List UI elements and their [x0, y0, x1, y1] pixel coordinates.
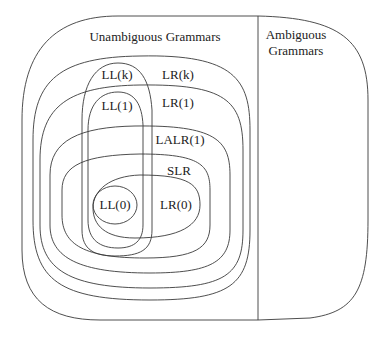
lrk-set-boundary [33, 56, 250, 300]
grammar-classes-diagram: Unambiguous Grammars Ambiguous Grammars … [0, 0, 385, 339]
lrk-label: LR(k) [162, 67, 194, 82]
slr-label: SLR [167, 163, 191, 178]
unambiguous-grammars-label: Unambiguous Grammars [89, 29, 220, 44]
all-grammars-boundary [22, 16, 368, 320]
lr1-label: LR(1) [162, 95, 194, 110]
ll1-set-boundary [88, 92, 143, 248]
ambiguous-grammars-label-line1: Ambiguous [266, 27, 327, 42]
ll1-label: LL(1) [101, 98, 132, 113]
lr0-label: LR(0) [160, 197, 192, 212]
llk-label: LL(k) [101, 67, 132, 82]
ambiguous-grammars-label-line2: Grammars [269, 43, 324, 58]
ll0-label: LL(0) [99, 197, 130, 212]
lalr1-set-boundary [50, 126, 230, 273]
lalr1-label: LALR(1) [155, 132, 204, 147]
